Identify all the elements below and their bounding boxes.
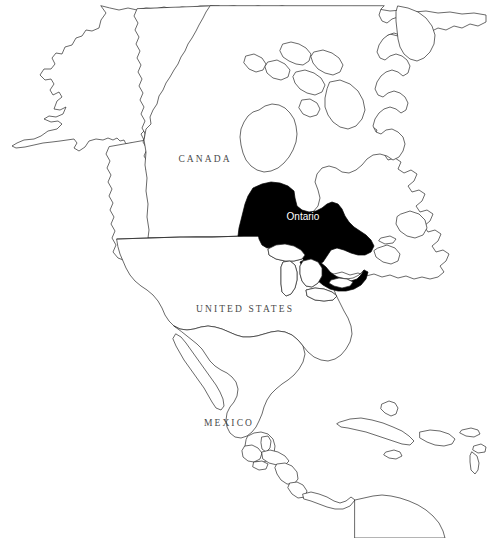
label-canada: CANADA xyxy=(178,154,231,164)
north-america-locator-map: CANADA UNITED STATES MEXICO Ontario xyxy=(0,0,488,551)
region-el-salvador xyxy=(253,461,268,470)
island-cuba xyxy=(337,418,414,445)
region-panama xyxy=(303,492,355,509)
map-canvas: CANADA UNITED STATES MEXICO Ontario xyxy=(0,0,488,538)
island-lesser-antilles xyxy=(470,452,479,474)
label-united-states: UNITED STATES xyxy=(196,304,294,314)
island-hispaniola xyxy=(420,430,455,446)
island-bahamas xyxy=(381,401,398,416)
island-jamaica xyxy=(384,450,402,459)
region-nicaragua xyxy=(275,463,298,484)
figure-caption xyxy=(0,541,488,551)
island-trinidad xyxy=(473,444,486,453)
label-mexico: MEXICO xyxy=(204,418,254,428)
label-ontario: Ontario xyxy=(287,211,320,222)
region-south-america-tip xyxy=(355,495,445,538)
island-puerto-rico xyxy=(460,428,480,437)
